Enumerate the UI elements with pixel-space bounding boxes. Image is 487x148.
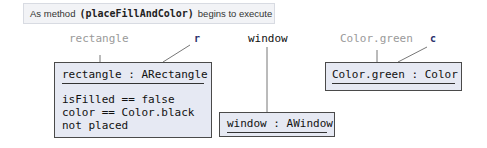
variable-window-label: window — [248, 32, 288, 45]
variable-rectangle-label: rectangle — [69, 32, 129, 45]
rectangle-field-isfilled: isFilled == false — [62, 93, 204, 106]
rectangle-object-box: rectangle : ARectangle isFilled == false… — [54, 62, 212, 138]
rectangle-field-placed: not placed — [62, 119, 204, 132]
rectangle-field-color: color == Color.black — [62, 106, 204, 119]
reference-c-label: c — [430, 33, 436, 44]
reference-r-label: r — [194, 33, 200, 44]
window-object-box: window : AWindow — [219, 112, 335, 137]
color-object-box: Color.green : Color — [325, 62, 462, 91]
color-object-title: Color.green : Color — [332, 68, 455, 84]
variable-color-label: Color.green — [340, 32, 413, 45]
rectangle-object-title: rectangle : ARectangle — [62, 68, 204, 84]
window-object-title: window : AWindow — [227, 117, 327, 133]
